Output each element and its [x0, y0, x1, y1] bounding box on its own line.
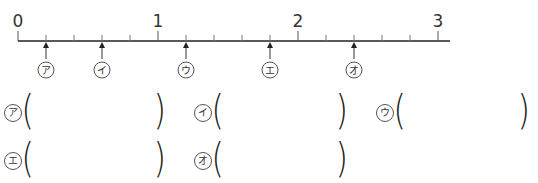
major-label-2: 2 — [293, 11, 304, 31]
close-paren: ) — [154, 88, 166, 132]
answer-a-field[interactable] — [34, 96, 144, 132]
label-a-circle: ア — [4, 104, 22, 122]
marker-label: ウ — [181, 65, 191, 76]
arrow-up-icon — [183, 42, 189, 48]
close-paren: ) — [518, 88, 530, 132]
answer-i[interactable]: イ ( ) — [194, 92, 354, 136]
answer-i-field[interactable] — [224, 96, 334, 132]
number-line: 0123アイウエオ — [0, 0, 538, 90]
close-paren: ) — [154, 136, 166, 180]
answer-o-field[interactable] — [224, 144, 334, 180]
label-i-circle: イ — [194, 104, 212, 122]
arrow-up-icon — [99, 42, 105, 48]
label-e-circle: エ — [4, 152, 22, 170]
close-paren: ) — [336, 88, 348, 132]
answer-a[interactable]: ア ( ) — [4, 92, 164, 136]
open-paren: ( — [394, 88, 406, 132]
answer-e-field[interactable] — [34, 144, 144, 180]
marker-label: エ — [265, 65, 275, 76]
marker-label: オ — [349, 65, 359, 76]
answer-e[interactable]: エ ( ) — [4, 140, 164, 183]
arrow-up-icon — [351, 42, 357, 48]
arrow-up-icon — [43, 42, 49, 48]
answer-o[interactable]: オ ( ) — [194, 140, 354, 183]
marker-label: イ — [97, 65, 107, 76]
answer-u-field[interactable] — [406, 96, 516, 132]
label-o-circle: オ — [194, 152, 212, 170]
major-label-1: 1 — [153, 11, 164, 31]
open-paren: ( — [212, 136, 224, 180]
open-paren: ( — [22, 136, 34, 180]
open-paren: ( — [212, 88, 224, 132]
major-label-0: 0 — [13, 11, 24, 31]
arrow-up-icon — [267, 42, 273, 48]
major-label-3: 3 — [433, 11, 444, 31]
marker-label: ア — [41, 65, 51, 76]
answer-u[interactable]: ウ ( ) — [376, 92, 536, 136]
label-u-circle: ウ — [376, 104, 394, 122]
open-paren: ( — [22, 88, 34, 132]
close-paren: ) — [336, 136, 348, 180]
